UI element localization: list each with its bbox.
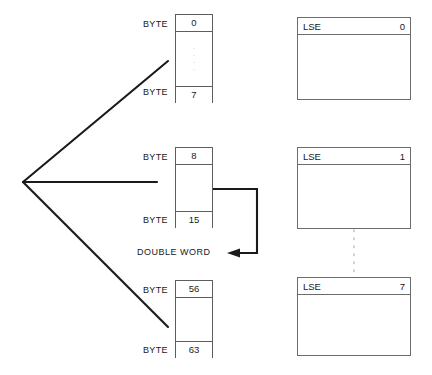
memory-organization-diagram: BYTE BYTE 0 · · · · 7 BYTE BYTE 8 15 DOU… [0, 0, 432, 375]
lse-header-index: 7 [400, 279, 405, 294]
lse-block-1: LSE 1 [297, 147, 411, 229]
branch-line-top [23, 61, 168, 182]
byte-label-text: BYTE [143, 87, 168, 97]
lse-header-label: LSE [303, 279, 321, 294]
byte-cell-start: 56 [176, 281, 212, 298]
lse-header-label: LSE [303, 149, 321, 164]
byte-label-text: BYTE [143, 215, 168, 225]
byte-label-text: BYTE [143, 345, 168, 355]
lse-block-7: LSE 7 [297, 277, 411, 356]
byte-label-0: BYTE [108, 19, 168, 29]
lse-header: LSE 7 [298, 278, 410, 295]
byte-cell-end: 15 [176, 211, 212, 228]
byte-cell-middle [176, 298, 212, 341]
vertical-ellipsis-icon: · · · · [176, 45, 212, 73]
byte-label-63: BYTE [108, 345, 168, 355]
double-word-label: DOUBLE WORD [137, 247, 211, 257]
byte-label-text: BYTE [143, 19, 168, 29]
byte-cell-middle [176, 165, 212, 211]
byte-cell-end: 63 [176, 341, 212, 358]
byte-label-text: BYTE [143, 285, 168, 295]
lse-block-0: LSE 0 [297, 17, 411, 100]
byte-label-7: BYTE [108, 87, 168, 97]
byte-column-8-15: 8 15 [175, 147, 213, 228]
byte-cell-middle: · · · · [176, 32, 212, 86]
lse-body [298, 35, 410, 99]
lse-body [298, 295, 410, 355]
byte-label-56: BYTE [108, 285, 168, 295]
byte-column-0-7: 0 · · · · 7 [175, 14, 213, 103]
byte-label-15: BYTE [108, 215, 168, 225]
double-word-bracket [211, 189, 257, 253]
double-word-text: DOUBLE WORD [137, 247, 211, 257]
lse-header-index: 0 [400, 19, 405, 34]
lse-header: LSE 1 [298, 148, 410, 165]
byte-label-text: BYTE [143, 152, 168, 162]
lse-header-label: LSE [303, 19, 321, 34]
byte-cell-end: 7 [176, 86, 212, 103]
byte-column-56-63: 56 63 [175, 280, 213, 358]
lse-header-index: 1 [400, 149, 405, 164]
double-word-arrowhead [227, 248, 240, 257]
lse-header: LSE 0 [298, 18, 410, 35]
byte-cell-start: 0 [176, 15, 212, 32]
byte-cell-start: 8 [176, 148, 212, 165]
lse-body [298, 165, 410, 228]
byte-label-8: BYTE [108, 152, 168, 162]
